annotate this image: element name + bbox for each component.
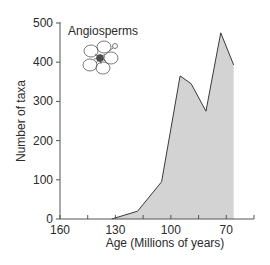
- y-axis-title: Number of taxa: [14, 80, 28, 162]
- y-tick-label: 100: [33, 173, 53, 187]
- x-tick-label: 130: [105, 223, 125, 237]
- flower-sketch-icon: [83, 41, 118, 74]
- x-axis-title: Age (Millions of years): [106, 236, 225, 250]
- y-ticks: 0100200300400500: [33, 16, 60, 226]
- y-tick-label: 300: [33, 94, 53, 108]
- plot-area: [112, 33, 234, 219]
- x-tick-label: 160: [50, 223, 70, 237]
- chart-annotation: Angiosperms: [68, 24, 138, 38]
- x-tick-label: 100: [161, 223, 181, 237]
- y-tick-label: 400: [33, 55, 53, 69]
- y-tick-label: 200: [33, 134, 53, 148]
- y-tick-label: 500: [33, 16, 53, 30]
- x-tick-label: 70: [220, 223, 234, 237]
- angiosperm-diversity-chart: 0100200300400500 16013010070 Number of t…: [0, 0, 270, 265]
